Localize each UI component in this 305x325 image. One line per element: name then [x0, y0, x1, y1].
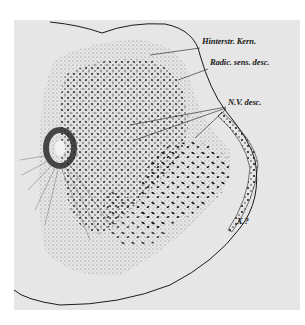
label-x-query: X.?	[237, 216, 249, 226]
label-hinterstr-kern: Hinterstr. Kern.	[202, 36, 256, 46]
label-radic-sens-desc: Radic. sens. desc.	[210, 57, 269, 67]
label-n-v-desc: N.V. desc.	[228, 97, 261, 107]
